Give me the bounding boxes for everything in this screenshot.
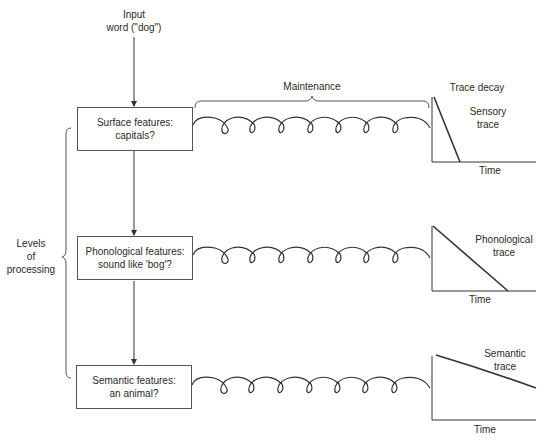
maintenance-label: Maintenance — [262, 80, 362, 93]
phonological-trace-line2: trace — [464, 246, 544, 259]
surface-features-line2: capitals? — [115, 129, 154, 142]
levels-of-processing-label: Levels of processing — [0, 237, 62, 276]
semantic-trace-line1: Semantic — [470, 347, 540, 360]
semantic-time-label: Time — [465, 423, 505, 436]
phonological-trace-line1: Phonological — [464, 233, 544, 246]
semantic-features-line1: Semantic features: — [92, 374, 175, 387]
semantic-trace-label: Semantic trace — [470, 347, 540, 373]
levels-brace — [62, 128, 71, 378]
phonological-features-line2: sound like 'bog'? — [98, 258, 172, 271]
sensory-trace-line2: trace — [458, 118, 518, 131]
sensory-time-label: Time — [470, 164, 510, 177]
phonological-time-label: Time — [460, 293, 500, 306]
sensory-trace-line1: Sensory — [458, 105, 518, 118]
phonological-features-line1: Phonological features: — [86, 245, 185, 258]
semantic-trace-line2: trace — [470, 360, 540, 373]
trace-decay-label: Trace decay — [440, 81, 514, 94]
input-label-line1: Input — [94, 8, 174, 21]
input-label: Input word ("dog") — [94, 8, 174, 34]
surface-features-line1: Surface features: — [97, 116, 173, 129]
sensory-trace-label: Sensory trace — [458, 105, 518, 131]
levels-label-line2: of — [0, 250, 62, 263]
phonological-trace-label: Phonological trace — [464, 233, 544, 259]
semantic-features-box: Semantic features: an animal? — [76, 365, 192, 409]
levels-label-line3: processing — [0, 263, 62, 276]
input-label-line2: word ("dog") — [94, 21, 174, 34]
maintenance-coil-semantic — [192, 377, 430, 393]
levels-label-line1: Levels — [0, 237, 62, 250]
maintenance-brace — [195, 96, 429, 108]
semantic-features-line2: an animal? — [110, 387, 159, 400]
maintenance-coil-surface — [193, 117, 430, 133]
phonological-features-box: Phonological features: sound like 'bog'? — [77, 236, 193, 280]
maintenance-coil-phonological — [193, 247, 430, 263]
surface-features-box: Surface features: capitals? — [77, 107, 193, 151]
